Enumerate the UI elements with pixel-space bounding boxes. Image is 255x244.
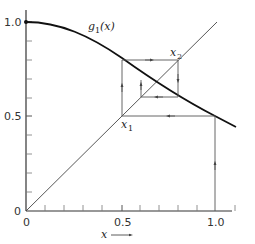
x-axis-label: x (101, 228, 108, 241)
y-tick-0.5: 0.5 (4, 110, 22, 123)
x-tick-1.0: 1.0 (207, 216, 225, 229)
svg-text:1: 1 (128, 124, 133, 133)
fixed-point-iteration-diagram: 1.0 0.5 0 0 0.5 1.0 x g 1 (x) x 1 x 2 (0, 0, 255, 244)
x-tick-0: 0 (23, 216, 30, 229)
svg-text:x: x (170, 46, 177, 59)
x2-label: x 2 (170, 46, 182, 61)
y-tick-1.0: 1.0 (4, 16, 22, 29)
svg-text:g: g (88, 20, 95, 33)
x-axis (26, 205, 235, 211)
cobweb-path (122, 60, 215, 211)
curve-start-point (24, 20, 28, 24)
x1-label: x 1 (121, 118, 133, 133)
curve-label: g 1 (x) (88, 20, 115, 35)
y-axis (26, 10, 32, 211)
svg-text:2: 2 (177, 52, 182, 61)
svg-text:x: x (121, 118, 128, 131)
x-tick-0.5: 0.5 (114, 216, 132, 229)
y-tick-0: 0 (14, 205, 21, 218)
identity-line (26, 22, 217, 211)
g1-curve (26, 22, 236, 127)
svg-text:(x): (x) (100, 20, 115, 33)
